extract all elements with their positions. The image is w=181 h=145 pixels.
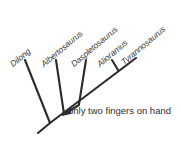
branch-albertosaurus	[56, 60, 64, 114]
cladogram-lines	[0, 0, 181, 145]
annotation-label: only two fingers on hand	[68, 106, 171, 116]
cladogram-figure: Dilong Albertosaurus Daspletosaurus Alio…	[0, 0, 181, 145]
branch-alioramus	[112, 60, 118, 70]
branch-root-stem	[38, 123, 50, 133]
branch-dilong	[25, 60, 50, 123]
